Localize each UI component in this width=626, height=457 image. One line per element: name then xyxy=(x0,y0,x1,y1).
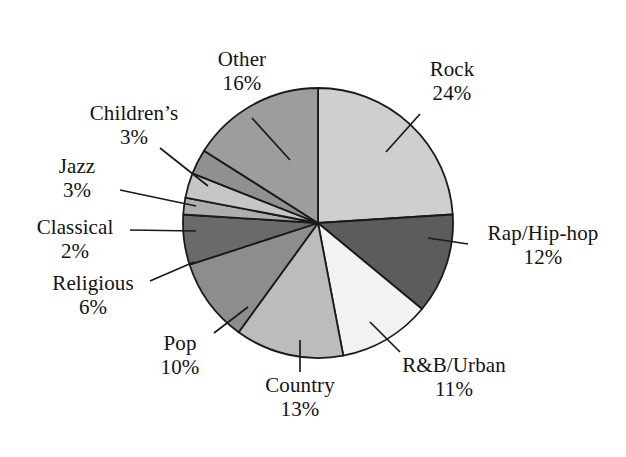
slice-label-rnb: R&B/Urban 11% xyxy=(386,354,522,401)
slice-label-religious: Religious 6% xyxy=(38,272,148,319)
slice-label-rnb-name: R&B/Urban xyxy=(386,354,522,378)
pie-chart-figure: Other 16% Children’s 3% Jazz 3% Classica… xyxy=(0,0,626,457)
slice-label-other-percent: 16% xyxy=(196,72,288,96)
slice-label-classical-name: Classical xyxy=(22,216,128,240)
slice-label-classical-percent: 2% xyxy=(22,240,128,264)
slice-label-childrens-name: Children’s xyxy=(72,102,196,126)
slice-label-country: Country 13% xyxy=(248,374,352,421)
slice-label-classical: Classical 2% xyxy=(22,216,128,263)
slice-label-childrens: Children’s 3% xyxy=(72,102,196,149)
slice-label-rnb-percent: 11% xyxy=(386,378,522,402)
slice-label-rap-percent: 12% xyxy=(470,246,616,270)
slice-label-rap: Rap/Hip-hop 12% xyxy=(470,222,616,269)
slice-label-jazz: Jazz 3% xyxy=(40,155,114,202)
slice-label-religious-percent: 6% xyxy=(38,296,148,320)
slice-label-jazz-percent: 3% xyxy=(40,179,114,203)
pie-slices-group xyxy=(183,88,453,358)
slice-label-religious-name: Religious xyxy=(38,272,148,296)
slice-label-rock-name: Rock xyxy=(410,58,494,82)
slice-label-other: Other 16% xyxy=(196,48,288,95)
slice-label-country-name: Country xyxy=(248,374,352,398)
slice-label-country-percent: 13% xyxy=(248,398,352,422)
slice-label-rock-percent: 24% xyxy=(410,82,494,106)
slice-label-rock: Rock 24% xyxy=(410,58,494,105)
leader-line-classical xyxy=(130,230,196,231)
slice-label-pop-percent: 10% xyxy=(148,356,212,380)
slice-label-other-name: Other xyxy=(196,48,288,72)
slice-label-childrens-percent: 3% xyxy=(72,126,196,150)
pie-slice-rock xyxy=(318,88,453,223)
slice-label-jazz-name: Jazz xyxy=(40,155,114,179)
leader-line-religious xyxy=(150,262,194,281)
slice-label-pop: Pop 10% xyxy=(148,332,212,379)
slice-label-rap-name: Rap/Hip-hop xyxy=(470,222,616,246)
slice-label-pop-name: Pop xyxy=(148,332,212,356)
